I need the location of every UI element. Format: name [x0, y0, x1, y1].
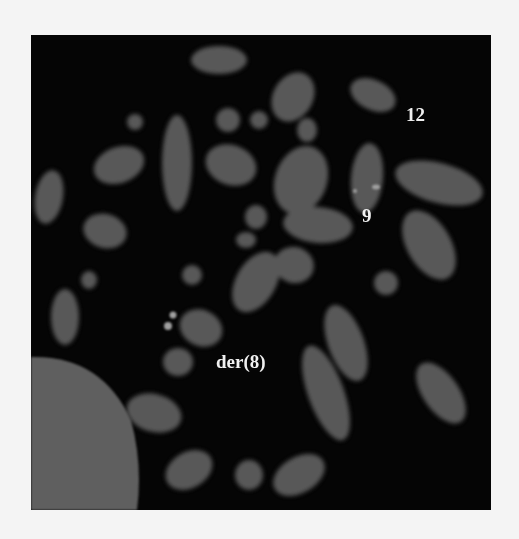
label-chromosome-12: 12 — [406, 105, 425, 124]
label-chromosome-9: 9 — [362, 206, 372, 225]
label-der8: der(8) — [216, 352, 266, 371]
interphase-nucleus — [31, 357, 139, 510]
